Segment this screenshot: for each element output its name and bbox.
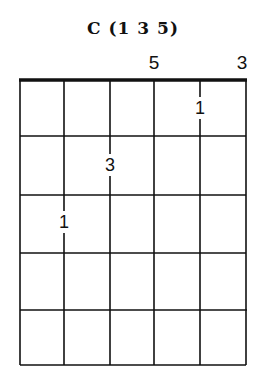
finger-marker: 1 xyxy=(58,211,70,233)
finger-marker: 1 xyxy=(194,97,206,119)
fretboard-grid xyxy=(0,0,266,383)
finger-marker: 3 xyxy=(104,154,116,176)
